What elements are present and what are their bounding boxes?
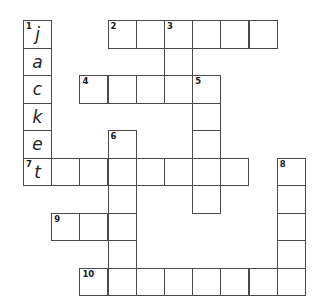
crossword-cell[interactable]: 10 xyxy=(79,268,108,297)
crossword-cell[interactable]: 1j xyxy=(23,20,52,49)
clue-number: 3 xyxy=(167,22,173,31)
crossword-cell[interactable] xyxy=(79,213,108,242)
crossword-cell[interactable] xyxy=(108,158,137,187)
crossword-grid: 1jacke7t234569810 xyxy=(0,0,327,305)
crossword-cell[interactable] xyxy=(277,240,306,269)
cell-letter: e xyxy=(24,134,51,154)
crossword-cell[interactable] xyxy=(136,20,165,49)
crossword-cell[interactable] xyxy=(249,20,278,49)
clue-number: 5 xyxy=(195,77,201,86)
clue-number: 6 xyxy=(111,132,117,141)
crossword-cell[interactable] xyxy=(108,213,137,242)
crossword-cell[interactable] xyxy=(192,158,221,187)
crossword-cell[interactable] xyxy=(164,48,193,77)
crossword-cell[interactable] xyxy=(192,20,221,49)
cell-letter: t xyxy=(24,162,51,182)
clue-number: 10 xyxy=(82,270,94,279)
crossword-cell[interactable] xyxy=(192,130,221,159)
crossword-cell[interactable] xyxy=(164,158,193,187)
crossword-cell[interactable] xyxy=(136,75,165,104)
crossword-cell[interactable]: 3 xyxy=(164,20,193,49)
crossword-cell[interactable] xyxy=(108,240,137,269)
crossword-cell[interactable] xyxy=(192,268,221,297)
crossword-cell[interactable]: 9 xyxy=(51,213,80,242)
crossword-cell[interactable] xyxy=(277,185,306,214)
crossword-cell[interactable] xyxy=(277,213,306,242)
crossword-cell[interactable]: k xyxy=(23,103,52,132)
crossword-cell[interactable]: 2 xyxy=(108,20,137,49)
crossword-cell[interactable] xyxy=(192,185,221,214)
crossword-cell[interactable] xyxy=(108,75,137,104)
clue-number: 4 xyxy=(82,77,88,86)
cell-letter: j xyxy=(24,24,51,44)
crossword-cell[interactable] xyxy=(108,268,137,297)
crossword-cell[interactable] xyxy=(192,103,221,132)
crossword-cell[interactable] xyxy=(79,158,108,187)
crossword-cell[interactable]: 4 xyxy=(79,75,108,104)
crossword-cell[interactable]: 5 xyxy=(192,75,221,104)
crossword-cell[interactable] xyxy=(220,158,249,187)
crossword-cell[interactable] xyxy=(136,268,165,297)
crossword-cell[interactable] xyxy=(164,75,193,104)
crossword-cell[interactable] xyxy=(249,268,278,297)
crossword-cell[interactable] xyxy=(220,20,249,49)
crossword-cell[interactable]: 8 xyxy=(277,158,306,187)
clue-number: 2 xyxy=(111,22,117,31)
clue-number: 9 xyxy=(54,215,60,224)
crossword-cell[interactable] xyxy=(277,268,306,297)
crossword-cell[interactable] xyxy=(51,158,80,187)
cell-letter: c xyxy=(24,79,51,99)
crossword-cell[interactable]: 6 xyxy=(108,130,137,159)
crossword-cell[interactable]: e xyxy=(23,130,52,159)
crossword-cell[interactable] xyxy=(108,185,137,214)
crossword-cell[interactable]: 7t xyxy=(23,158,52,187)
crossword-cell[interactable]: c xyxy=(23,75,52,104)
clue-number: 8 xyxy=(280,160,286,169)
crossword-cell[interactable] xyxy=(164,268,193,297)
cell-letter: a xyxy=(24,52,51,72)
crossword-cell[interactable] xyxy=(220,268,249,297)
crossword-cell[interactable]: a xyxy=(23,48,52,77)
crossword-cell[interactable] xyxy=(136,158,165,187)
cell-letter: k xyxy=(24,107,51,127)
